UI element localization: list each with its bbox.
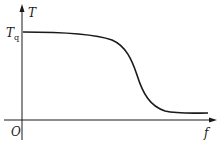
t-f-curve <box>23 32 208 113</box>
y-tick-label-sub: q <box>14 33 19 42</box>
origin-label: O <box>11 125 21 139</box>
y-axis-arrow-icon <box>20 4 25 12</box>
y-axis-label: T <box>28 6 37 20</box>
x-axis-arrow-icon <box>209 118 217 123</box>
y-tick-label-tq: Tq <box>6 26 19 42</box>
diagram-canvas: T Tq O f <box>0 0 222 152</box>
x-axis-label: f <box>203 126 211 140</box>
